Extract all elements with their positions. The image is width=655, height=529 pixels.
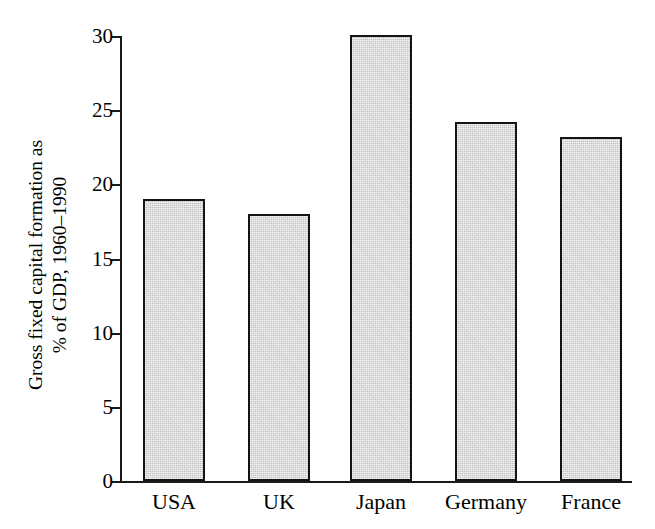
x-axis-label-germany: Germany [445,491,527,513]
y-axis-tick-label: 15 [92,248,113,269]
bar-france [560,137,622,481]
y-axis-tick-label: 30 [92,26,113,47]
x-axis-label-uk: UK [263,491,295,513]
y-axis-title: Gross fixed capital formation as % of GD… [0,0,96,529]
y-axis-tick-label: 10 [92,322,113,343]
y-axis-tick-label: 0 [103,471,114,492]
y-axis-title-text: Gross fixed capital formation as % of GD… [24,139,72,389]
bar-uk [248,214,310,481]
x-axis-label-france: France [561,491,621,513]
bar-germany [455,122,517,481]
plot-area: 051015202530 USAUKJapanGermanyFrance [120,36,632,483]
bar-chart-figure: Gross fixed capital formation as % of GD… [0,0,655,529]
bar-usa [143,199,205,481]
x-axis-label-japan: Japan [356,491,406,513]
bar-japan [350,35,412,481]
y-axis-tick-label: 5 [103,396,114,417]
y-axis-tick-label: 25 [92,100,113,121]
y-axis-title-line-1: Gross fixed capital formation as [24,139,48,389]
y-axis-line [120,36,122,483]
x-axis-label-usa: USA [152,491,196,513]
y-axis-title-line-2: % of GDP, 1960–1990 [48,139,72,389]
y-axis-tick-label: 20 [92,174,113,195]
x-axis-line [120,481,632,483]
